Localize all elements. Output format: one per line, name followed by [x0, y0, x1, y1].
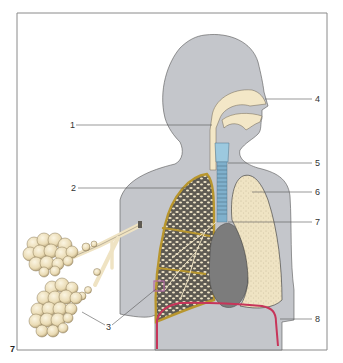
label-5: 5: [315, 158, 320, 168]
figure-number: 7: [10, 344, 15, 354]
trachea: [217, 162, 227, 222]
label-7: 7: [315, 217, 320, 227]
label-8: 8: [315, 314, 320, 324]
label-4: 4: [315, 94, 320, 104]
label-6: 6: [315, 187, 320, 197]
larynx: [215, 143, 229, 162]
label-1: 1: [70, 120, 75, 130]
diagram-canvas: [0, 0, 343, 363]
label-2: 2: [71, 183, 76, 193]
label-3: 3: [106, 322, 111, 332]
respiratory-system-diagram: 1 2 3 4 5 6 7 8 7: [0, 0, 343, 363]
